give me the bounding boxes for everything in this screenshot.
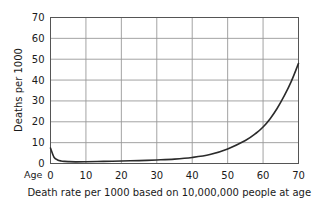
y-axis-tick-label: 40 (32, 75, 45, 86)
y-axis-tick-label: 30 (32, 95, 45, 106)
x-axis-tick-label: 30 (150, 170, 163, 181)
x-axis-tick-label: 40 (186, 170, 199, 181)
x-axis-tick-label: 10 (80, 170, 93, 181)
x-axis-tick-label: 60 (257, 170, 270, 181)
y-axis-tick-label: 0 (38, 158, 44, 169)
x-axis-tick-label: 20 (115, 170, 128, 181)
y-axis-tick-label: 20 (32, 116, 45, 127)
x-axis-origin-label: Age (24, 169, 43, 180)
y-axis-title: Deaths per 1000 (13, 48, 24, 132)
chart-figure: 010203040506070 010203040506070 Deaths p… (0, 0, 314, 207)
chart-caption: Death rate per 1000 based on 10,000,000 … (27, 187, 314, 198)
y-axis-tick-label: 50 (32, 54, 45, 65)
y-axis-tick-label: 60 (32, 33, 45, 44)
death-rate-line-chart: 010203040506070 010203040506070 Deaths p… (0, 0, 314, 207)
y-axis-tick-label: 10 (32, 137, 45, 148)
y-axis-tick-label: 70 (32, 12, 45, 23)
x-axis-tick-label: 50 (221, 170, 234, 181)
x-axis-tick-label: 0 (47, 170, 53, 181)
x-axis-tick-label: 70 (292, 170, 305, 181)
